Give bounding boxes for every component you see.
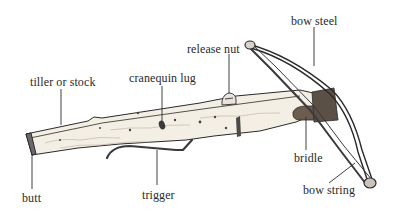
crossbow-illustration	[0, 0, 411, 213]
label-cranequin-lug: cranequin lug	[129, 72, 196, 84]
label-butt: butt	[22, 192, 41, 204]
label-bow-steel: bow steel	[291, 15, 338, 27]
release-nut-shape	[222, 93, 236, 105]
label-trigger: trigger	[142, 189, 175, 201]
label-release-nut: release nut	[187, 43, 240, 55]
label-tiller-or-stock: tiller or stock	[30, 76, 95, 88]
label-bridle: bridle	[294, 152, 323, 164]
label-bow-string: bow string	[303, 184, 355, 196]
crossbow-diagram: tiller or stock cranequin lug release nu…	[0, 0, 411, 213]
stock-shape	[26, 90, 322, 155]
